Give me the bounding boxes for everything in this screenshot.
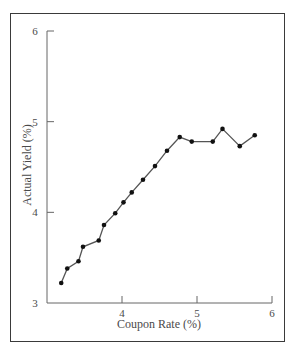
- data-point-marker: [102, 223, 107, 228]
- series-line: [61, 129, 255, 283]
- data-point-marker: [141, 177, 146, 182]
- y-tick-label: 6: [32, 25, 38, 37]
- data-point-marker: [165, 148, 170, 153]
- data-point-marker: [237, 144, 242, 149]
- data-point-marker: [129, 190, 134, 195]
- data-point-marker: [76, 259, 81, 264]
- axes: [47, 31, 272, 303]
- data-point-marker: [153, 164, 158, 169]
- y-tick-label: 4: [32, 206, 38, 218]
- data-point-marker: [59, 281, 64, 286]
- data-point-marker: [252, 133, 257, 138]
- data-point-marker: [96, 238, 101, 243]
- data-point-marker: [189, 139, 194, 144]
- data-point-marker: [220, 127, 225, 132]
- data-point-marker: [121, 200, 126, 205]
- y-tick-label: 3: [32, 297, 38, 309]
- line-chart: 3456456 Coupon Rate (%) Actual Yield (%): [0, 0, 293, 350]
- data-point-marker: [113, 211, 118, 216]
- axis-ticks: 3456456: [32, 25, 275, 319]
- x-tick-label: 6: [269, 307, 275, 319]
- data-point-marker: [210, 139, 215, 144]
- data-series: [59, 127, 257, 286]
- data-point-marker: [177, 135, 182, 140]
- y-axis-label: Actual Yield (%): [20, 124, 34, 206]
- data-point-marker: [81, 244, 86, 249]
- data-point-marker: [65, 266, 70, 271]
- x-axis-label: Coupon Rate (%): [117, 317, 201, 331]
